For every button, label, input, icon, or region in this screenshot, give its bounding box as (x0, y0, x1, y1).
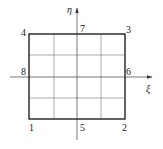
node-label-6: 6 (126, 66, 131, 77)
element-diagram: η ξ 4 7 3 8 6 1 5 2 (0, 0, 163, 149)
node-label-3: 3 (126, 24, 131, 35)
node-label-4: 4 (21, 27, 26, 38)
node-label-8: 8 (21, 66, 26, 77)
node-label-1: 1 (29, 122, 34, 133)
eta-axis-label: η (67, 4, 72, 15)
node-label-2: 2 (122, 122, 127, 133)
node-label-5: 5 (80, 122, 85, 133)
xi-axis-label: ξ (146, 83, 151, 95)
node-label-7: 7 (80, 23, 85, 34)
